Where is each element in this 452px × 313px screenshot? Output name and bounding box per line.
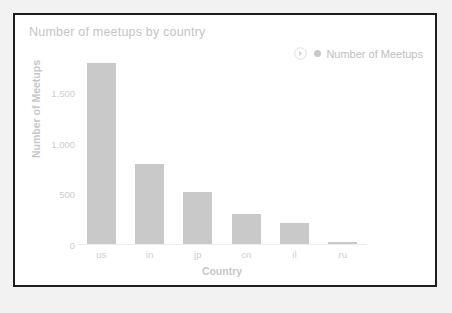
x-axis-tick-label: us (77, 249, 125, 260)
bar-jp[interactable] (183, 192, 212, 245)
plot-area (77, 53, 367, 245)
chart-card: Number of meetups by country Number of M… (13, 13, 437, 287)
x-axis-tick-label: cn (222, 249, 270, 260)
bar-series (77, 53, 367, 245)
x-axis-tick-label: in (125, 249, 173, 260)
x-axis-baseline (77, 244, 367, 245)
y-axis-tick-label: 0 (70, 240, 75, 251)
y-axis-ticks: 05001,0001,500 (43, 53, 75, 245)
bar-slot (319, 53, 367, 245)
y-axis-tick-label: 1,000 (51, 138, 75, 149)
bar-cn[interactable] (232, 214, 261, 245)
x-axis-title: Country (77, 265, 367, 277)
chart-title: Number of meetups by country (29, 25, 206, 39)
x-axis-tick-label: jp (174, 249, 222, 260)
bar-in[interactable] (135, 164, 164, 245)
bar-us[interactable] (87, 63, 116, 245)
x-axis-ticks: usinjpcnilru (77, 249, 367, 260)
bar-slot (222, 53, 270, 245)
y-axis-tick-label: 1,500 (51, 88, 75, 99)
bar-slot (270, 53, 318, 245)
bar-slot (77, 53, 125, 245)
bar-il[interactable] (280, 223, 309, 245)
x-axis-tick-label: ru (319, 249, 367, 260)
y-axis-title: Number of Meetups (30, 54, 42, 164)
bar-slot (174, 53, 222, 245)
y-axis-tick-label: 500 (59, 189, 75, 200)
x-axis-tick-label: il (270, 249, 318, 260)
bar-slot (125, 53, 173, 245)
